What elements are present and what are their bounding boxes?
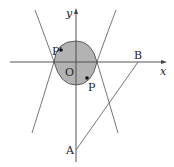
x-axis-arrow-icon [161, 60, 167, 64]
point-a-label: A [65, 144, 75, 157]
point-p-prime-label: P′ [52, 45, 62, 58]
x-axis-label: x [160, 65, 167, 78]
origin-label: O [65, 66, 74, 79]
point-b-label: B [134, 49, 142, 62]
parabola-diagram: y x O P′ P B A [0, 0, 174, 167]
point-p [85, 76, 89, 80]
parabola-downward-left [32, 62, 54, 133]
parabola-downward-right [97, 62, 118, 133]
parabola-upward-right [97, 10, 116, 62]
point-p-label: P [88, 81, 96, 94]
y-axis-label: y [65, 7, 73, 20]
y-axis-arrow-icon [74, 8, 78, 14]
diagram-canvas: y x O P′ P B A [0, 0, 174, 167]
